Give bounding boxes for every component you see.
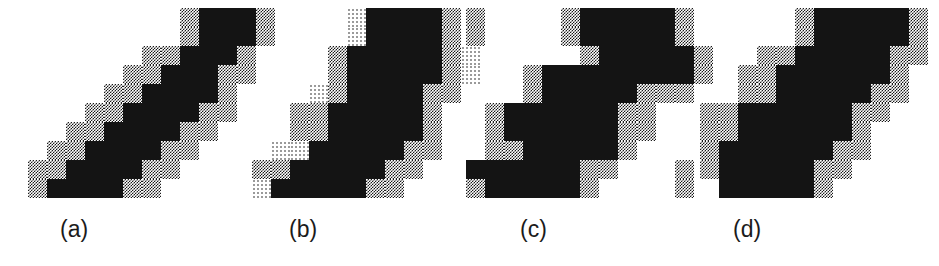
raster-cell: [347, 27, 366, 46]
raster-cell: [561, 141, 580, 160]
raster-cell: [404, 84, 423, 103]
raster-cell: [757, 103, 776, 122]
raster-cell: [719, 122, 738, 141]
raster-cell: [618, 65, 637, 84]
raster-cell: [814, 65, 833, 84]
raster-cell: [504, 122, 523, 141]
raster-cell: [85, 160, 104, 179]
raster-cell: [366, 46, 385, 65]
raster-cell: [218, 8, 237, 27]
raster-cell: [142, 141, 161, 160]
raster-cell: [385, 179, 404, 198]
raster-cell: [909, 8, 928, 27]
raster-cell: [385, 84, 404, 103]
raster-cell: [637, 122, 656, 141]
raster-cell: [404, 103, 423, 122]
raster-cell: [423, 122, 442, 141]
raster-cell: [180, 8, 199, 27]
raster-cell: [347, 65, 366, 84]
raster-cell: [290, 122, 309, 141]
raster-cell: [852, 141, 871, 160]
raster-cell: [328, 160, 347, 179]
raster-cell: [404, 27, 423, 46]
raster-cell: [423, 84, 442, 103]
raster-cell: [161, 122, 180, 141]
raster-cell: [404, 122, 423, 141]
raster-cell: [366, 160, 385, 179]
raster-cell: [795, 141, 814, 160]
raster-cell: [890, 46, 909, 65]
raster-cell: [180, 65, 199, 84]
raster-cell: [309, 160, 328, 179]
raster-cell: [852, 122, 871, 141]
raster-cell: [542, 103, 561, 122]
raster-grid-a: [28, 8, 275, 198]
raster-cell: [161, 65, 180, 84]
raster-cell: [366, 141, 385, 160]
raster-cell: [814, 122, 833, 141]
raster-cell: [523, 122, 542, 141]
raster-cell: [871, 27, 890, 46]
raster-cell: [442, 27, 461, 46]
raster-cell: [523, 84, 542, 103]
raster-cell: [580, 160, 599, 179]
raster-cell: [599, 84, 618, 103]
raster-cell: [580, 179, 599, 198]
raster-cell: [252, 160, 271, 179]
raster-cell: [28, 160, 47, 179]
panel-a: [28, 8, 275, 198]
raster-cell: [852, 8, 871, 27]
raster-cell: [442, 8, 461, 27]
raster-cell: [738, 65, 757, 84]
raster-cell: [833, 27, 852, 46]
raster-cell: [423, 141, 442, 160]
raster-cell: [485, 179, 504, 198]
raster-cell: [890, 65, 909, 84]
raster-cell: [675, 27, 694, 46]
raster-cell: [347, 84, 366, 103]
raster-grid-d: [700, 8, 928, 198]
raster-cell: [700, 122, 719, 141]
raster-cell: [814, 160, 833, 179]
raster-cell: [795, 103, 814, 122]
raster-cell: [85, 122, 104, 141]
raster-cell: [776, 141, 795, 160]
raster-cell: [890, 84, 909, 103]
raster-cell: [385, 160, 404, 179]
raster-cell: [776, 103, 795, 122]
raster-cell: [580, 84, 599, 103]
raster-cell: [123, 84, 142, 103]
raster-cell: [795, 8, 814, 27]
raster-cell: [442, 65, 461, 84]
raster-cell: [618, 141, 637, 160]
raster-cell: [523, 141, 542, 160]
raster-cell: [309, 103, 328, 122]
raster-cell: [580, 8, 599, 27]
raster-cell: [85, 141, 104, 160]
raster-cell: [347, 46, 366, 65]
raster-cell: [366, 8, 385, 27]
raster-cell: [561, 84, 580, 103]
raster-cell: [123, 141, 142, 160]
raster-cell: [347, 103, 366, 122]
raster-cell: [504, 103, 523, 122]
raster-cell: [328, 84, 347, 103]
raster-cell: [814, 27, 833, 46]
raster-cell: [675, 8, 694, 27]
raster-cell: [47, 160, 66, 179]
raster-cell: [385, 103, 404, 122]
raster-cell: [485, 160, 504, 179]
raster-cell: [561, 179, 580, 198]
raster-cell: [618, 84, 637, 103]
raster-cell: [385, 8, 404, 27]
raster-cell: [423, 46, 442, 65]
raster-cell: [423, 8, 442, 27]
raster-cell: [199, 27, 218, 46]
raster-cell: [385, 27, 404, 46]
raster-cell: [656, 27, 675, 46]
panel-b: [252, 8, 480, 198]
raster-cell: [795, 160, 814, 179]
raster-cell: [328, 122, 347, 141]
raster-cell: [290, 179, 309, 198]
raster-cell: [852, 46, 871, 65]
